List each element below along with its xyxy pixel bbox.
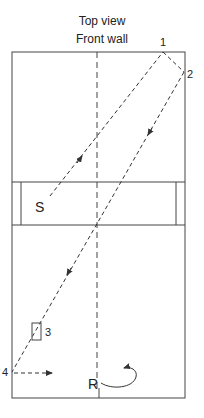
label-point-3: 3 xyxy=(45,326,51,338)
receiver-curved-arrow-icon xyxy=(101,367,136,387)
label-receiver: R xyxy=(88,376,98,392)
label-server: S xyxy=(35,199,44,215)
serve-path xyxy=(50,52,163,196)
serve-arrow-icon xyxy=(77,156,82,163)
bounce-box-3 xyxy=(32,323,41,340)
rebound-path-1-2 xyxy=(163,52,184,72)
path-arrow-icon-lower xyxy=(67,268,71,275)
court-svg: 1 2 3 4 S R xyxy=(0,0,204,418)
path-arrow-icon-upper xyxy=(148,128,152,135)
court-diagram: Top view Front wall xyxy=(0,0,204,418)
label-point-2: 2 xyxy=(187,68,193,80)
label-point-1: 1 xyxy=(160,36,166,48)
rebound-path-2-4 xyxy=(12,72,184,372)
label-point-4: 4 xyxy=(2,366,8,378)
